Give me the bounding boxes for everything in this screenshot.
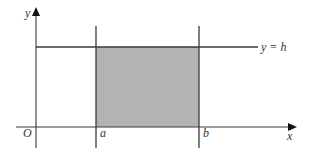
origin-label: O xyxy=(23,126,32,140)
label-b: b xyxy=(203,126,209,140)
label-a: a xyxy=(100,126,106,140)
label-y-equals-h: y = h xyxy=(260,40,286,54)
y-axis-arrow-icon xyxy=(32,7,40,16)
y-axis-label: y xyxy=(24,6,31,20)
x-axis-label: x xyxy=(286,129,293,143)
shaded-region xyxy=(96,47,199,127)
diagram: y x O a b y = h xyxy=(0,0,317,156)
